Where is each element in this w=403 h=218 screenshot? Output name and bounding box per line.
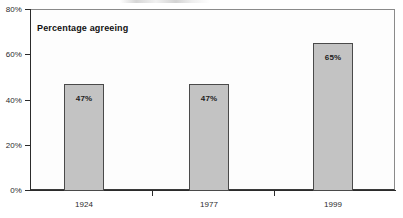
clipped-edge-artifact (120, 0, 210, 3)
y-axis-tick-0 (25, 190, 30, 191)
bar-1977[interactable]: 47% (189, 84, 229, 191)
x-axis-label-1999: 1999 (324, 200, 342, 209)
x-axis-label-1924: 1924 (75, 200, 93, 209)
y-axis-tick-20 (25, 145, 30, 146)
y-axis-line (30, 9, 31, 191)
bar-chart: 80% 60% 40% 20% 0% 47% 47% 65% 1924 1977… (0, 0, 403, 218)
x-axis-tick-boundary-1 (152, 191, 153, 196)
y-axis-label-60: 60% (6, 50, 22, 59)
bar-value-1977: 47% (190, 94, 228, 103)
bar-value-1924: 47% (65, 94, 103, 103)
bar-1999[interactable]: 65% (313, 43, 353, 191)
y-axis-tick-80 (25, 9, 30, 10)
y-axis-label-20: 20% (6, 141, 22, 150)
y-axis-label-40: 40% (6, 96, 22, 105)
y-axis-label-0: 0% (10, 186, 22, 195)
y-axis-tick-60 (25, 54, 30, 55)
chart-title: Percentage agreeing (37, 23, 128, 33)
x-axis-tick-boundary-2 (274, 191, 275, 196)
bar-value-1999: 65% (314, 53, 352, 62)
y-axis-label-80: 80% (6, 5, 22, 14)
bar-1924[interactable]: 47% (64, 84, 104, 191)
x-axis-label-1977: 1977 (200, 200, 218, 209)
y-axis-tick-40 (25, 100, 30, 101)
